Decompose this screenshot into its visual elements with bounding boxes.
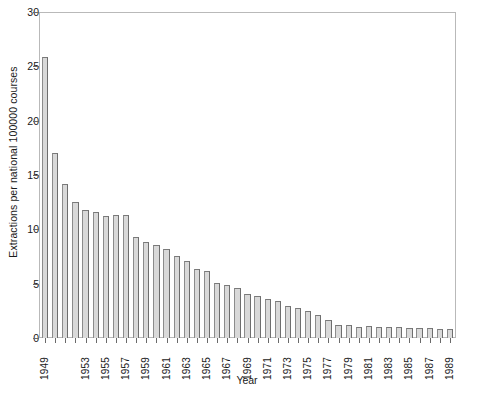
x-axis-tick-mark [318, 338, 319, 343]
x-axis-tick-mark [156, 338, 157, 343]
x-axis-tick-mark [197, 338, 198, 343]
y-axis-tick-mark [33, 338, 39, 339]
x-axis-tick-mark [369, 338, 370, 343]
x-axis-tick-mark [409, 338, 410, 343]
x-axis-tick-mark [268, 338, 269, 343]
bar [62, 184, 68, 338]
y-axis-tick-mark [33, 12, 39, 13]
x-axis-tick-mark [187, 338, 188, 343]
bar [174, 256, 180, 338]
x-axis-tick-mark [55, 338, 56, 343]
bar [406, 328, 412, 338]
x-axis-tick-mark [116, 338, 117, 343]
bar [335, 325, 341, 338]
y-axis-tick-mark [33, 284, 39, 285]
x-axis-tick-mark [278, 338, 279, 343]
bar [113, 215, 119, 339]
x-axis-tick-mark [126, 338, 127, 343]
x-axis-tick-mark [146, 338, 147, 343]
y-axis-tick-mark [33, 121, 39, 122]
bar [447, 329, 453, 338]
x-axis-tick-mark [96, 338, 97, 343]
x-axis-tick-mark [288, 338, 289, 343]
x-axis-tick-mark [389, 338, 390, 343]
x-axis-tick-mark [420, 338, 421, 343]
bar [82, 210, 88, 338]
bar [285, 306, 291, 339]
bar [163, 249, 169, 338]
y-axis-tick-mark [33, 229, 39, 230]
x-axis-tick-mark [207, 338, 208, 343]
x-axis-tick-mark [339, 338, 340, 343]
x-axis-tick-mark [227, 338, 228, 343]
bar [93, 212, 99, 338]
bar [396, 327, 402, 338]
bar [184, 261, 190, 338]
bar [234, 288, 240, 338]
bar [275, 301, 281, 338]
bar [376, 327, 382, 338]
bar [437, 329, 443, 338]
x-axis-tick-mark [440, 338, 441, 343]
x-axis-tick-mark [65, 338, 66, 343]
x-axis-tick-mark [258, 338, 259, 343]
bar [305, 311, 311, 338]
x-axis-tick-mark [349, 338, 350, 343]
bar [265, 299, 271, 338]
bar [244, 294, 250, 338]
x-axis-tick-mark [399, 338, 400, 343]
bar-series [40, 13, 455, 338]
bar [52, 153, 58, 338]
bar [315, 315, 321, 338]
x-axis-tick-mark [136, 338, 137, 343]
x-axis-tick-mark [217, 338, 218, 343]
x-axis-tick-mark [86, 338, 87, 343]
x-axis-tick-mark [328, 338, 329, 343]
y-axis-tick-mark [33, 175, 39, 176]
x-axis-tick-mark [359, 338, 360, 343]
bar [72, 202, 78, 339]
x-axis-tick-mark [45, 338, 46, 343]
bar [427, 328, 433, 338]
bar [416, 328, 422, 338]
x-axis-tick-mark [450, 338, 451, 343]
bar [325, 320, 331, 338]
bar [356, 327, 362, 338]
bar [103, 216, 109, 338]
bar [42, 57, 48, 338]
bar [133, 237, 139, 338]
bar-chart: Extractions per national 100000 courses … [0, 0, 477, 393]
y-axis-tick-mark [33, 66, 39, 67]
x-axis-tick-mark [248, 338, 249, 343]
bar [224, 285, 230, 338]
x-axis-tick-mark [177, 338, 178, 343]
bar [346, 325, 352, 338]
x-axis-tick-mark [308, 338, 309, 343]
bar [214, 283, 220, 338]
bar [153, 245, 159, 338]
bar [386, 327, 392, 338]
x-axis-tick-mark [237, 338, 238, 343]
bar [143, 242, 149, 338]
x-axis-tick-mark [106, 338, 107, 343]
bar [204, 271, 210, 338]
bar [366, 326, 372, 338]
x-axis-tick-mark [75, 338, 76, 343]
bar [123, 215, 129, 339]
x-axis-tick-mark [298, 338, 299, 343]
bar [295, 308, 301, 338]
x-axis-tick-mark [167, 338, 168, 343]
x-axis-tick-mark [430, 338, 431, 343]
x-axis-title: Year [38, 374, 456, 386]
bar [194, 269, 200, 338]
bar [254, 296, 260, 338]
x-axis-tick-mark [379, 338, 380, 343]
